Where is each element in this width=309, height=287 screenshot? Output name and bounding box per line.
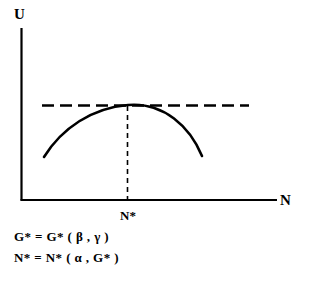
equation-block: G* = G* ( β , γ ) N* = N* ( α , G* ) — [14, 226, 294, 268]
equation-g-star: G* = G* ( β , γ ) — [14, 226, 294, 247]
utility-curve-figure: U N N* G* = G* ( β , γ ) N* = N* ( α , G… — [0, 0, 309, 287]
y-axis-label: U — [14, 7, 25, 22]
x-axis-label: N — [280, 193, 291, 208]
utility-curve-path — [44, 105, 202, 157]
equation-n-star: N* = N* ( α , G* ) — [14, 247, 294, 268]
x-axis-optimum-tick-label: N* — [120, 208, 136, 223]
